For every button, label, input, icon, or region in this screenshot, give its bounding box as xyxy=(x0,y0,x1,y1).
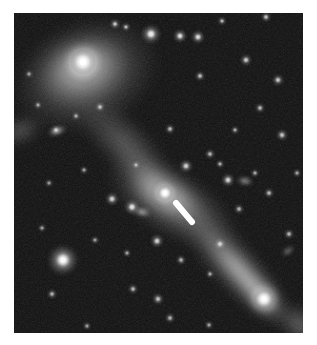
sky-canvas xyxy=(14,13,303,333)
page-root xyxy=(0,0,317,345)
astronomy-image-frame xyxy=(14,13,303,333)
grain-overlay-coarse xyxy=(14,13,303,333)
